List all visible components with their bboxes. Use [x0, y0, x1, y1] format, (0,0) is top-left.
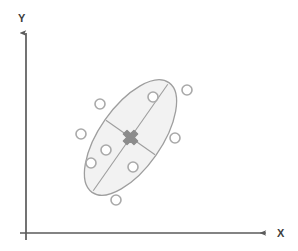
figure-canvas: Y X [0, 0, 298, 251]
data-point[interactable] [128, 162, 138, 172]
data-point[interactable] [86, 158, 96, 168]
x-axis-label: X [277, 227, 285, 239]
scatter-plot-figure: Y X [0, 0, 298, 251]
data-point[interactable] [101, 145, 111, 155]
data-point[interactable] [148, 92, 158, 102]
data-point[interactable] [170, 133, 180, 143]
data-point[interactable] [111, 195, 121, 205]
data-point[interactable] [95, 99, 105, 109]
data-point[interactable] [182, 85, 192, 95]
data-point[interactable] [76, 129, 86, 139]
y-axis-label: Y [18, 12, 26, 24]
